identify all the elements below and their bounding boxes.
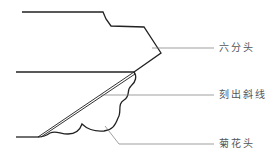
label-liufentou: 六分头 (219, 42, 255, 54)
label-juhuatou: 菊花头 (219, 138, 255, 150)
leader-line-juhuatou (105, 126, 214, 144)
upper-member-outline (22, 12, 161, 72)
diagonal-line-inner (41, 74, 135, 137)
profile-drawing (0, 0, 279, 161)
label-kechuxiexian: 刻出斜线 (219, 89, 267, 101)
